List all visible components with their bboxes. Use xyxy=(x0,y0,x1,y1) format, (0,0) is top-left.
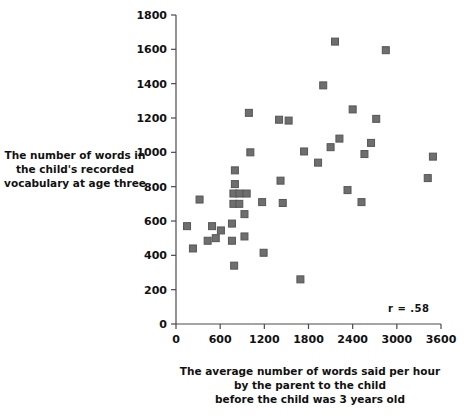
data-point-marker xyxy=(184,223,191,230)
data-point-marker xyxy=(315,159,322,166)
y-tick-label: 600 xyxy=(144,215,167,228)
data-point-marker xyxy=(259,199,266,206)
data-point-marker xyxy=(382,47,389,54)
data-point-marker xyxy=(260,249,267,256)
x-tick-label: 600 xyxy=(209,333,232,346)
x-tick-label: 3000 xyxy=(382,333,413,346)
y-tick-label: 800 xyxy=(144,181,167,194)
data-point-marker xyxy=(368,139,375,146)
data-point-marker xyxy=(279,199,286,206)
data-point-marker xyxy=(327,144,334,151)
data-point-marker xyxy=(320,82,327,89)
data-point-marker xyxy=(424,175,431,182)
y-tick-label: 1000 xyxy=(136,146,167,159)
data-point-marker xyxy=(228,237,235,244)
data-point-marker xyxy=(217,227,224,234)
data-point-marker xyxy=(373,115,380,122)
data-point-marker xyxy=(361,151,368,158)
data-point-marker xyxy=(276,116,283,123)
data-point-marker xyxy=(212,235,219,242)
data-point-marker xyxy=(349,106,356,113)
data-point-marker xyxy=(301,148,308,155)
x-tick-group: 060012001800240030003600 xyxy=(172,324,456,346)
y-tick-label: 1600 xyxy=(136,43,167,56)
data-point-marker xyxy=(247,149,254,156)
data-point-marker xyxy=(231,167,238,174)
data-point-marker xyxy=(241,211,248,218)
y-tick-label: 400 xyxy=(144,249,167,262)
data-point-marker xyxy=(189,245,196,252)
data-point-marker xyxy=(277,177,284,184)
data-point-marker xyxy=(285,117,292,124)
data-point-marker xyxy=(228,220,235,227)
data-point-marker xyxy=(231,181,238,188)
y-tick-label: 0 xyxy=(159,318,167,331)
data-point-marker xyxy=(231,262,238,269)
data-point-marker xyxy=(245,109,252,116)
y-tick-label: 1400 xyxy=(136,78,167,91)
scatter-plot-figure: The number of words in the child's recor… xyxy=(0,0,464,417)
data-point-marker xyxy=(236,190,243,197)
data-point-marker xyxy=(236,200,243,207)
x-tick-label: 1800 xyxy=(293,333,324,346)
x-tick-label: 0 xyxy=(172,333,180,346)
data-point-marker xyxy=(332,38,339,45)
data-point-marker xyxy=(243,190,250,197)
x-tick-label: 2400 xyxy=(337,333,368,346)
data-point-marker xyxy=(358,199,365,206)
data-point-marker xyxy=(209,223,216,230)
x-tick-label: 1200 xyxy=(249,333,280,346)
data-point-marker xyxy=(429,153,436,160)
y-tick-group: 020040060080010001200140016001800 xyxy=(136,9,176,331)
plot-canvas: 020040060080010001200140016001800 060012… xyxy=(0,0,464,417)
axes-group xyxy=(176,15,441,324)
data-point-marker xyxy=(336,135,343,142)
y-tick-label: 1200 xyxy=(136,112,167,125)
data-point-marker xyxy=(241,233,248,240)
y-tick-label: 200 xyxy=(144,284,167,297)
data-point-marker xyxy=(196,196,203,203)
data-point-marker xyxy=(204,237,211,244)
y-tick-label: 1800 xyxy=(136,9,167,22)
x-tick-label: 3600 xyxy=(426,333,457,346)
data-point-marker xyxy=(297,276,304,283)
data-points-group xyxy=(184,38,437,283)
data-point-marker xyxy=(344,187,351,194)
